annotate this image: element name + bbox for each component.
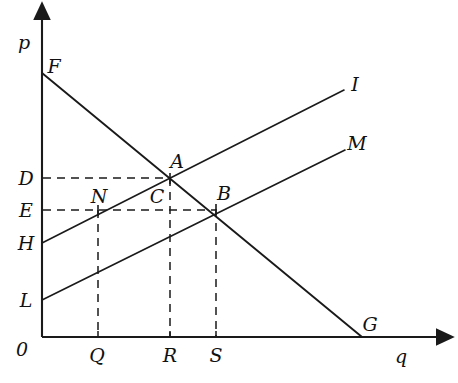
curve-label-m: M xyxy=(347,134,366,153)
point-label-g: G xyxy=(362,315,377,334)
y-tick-label-h: H xyxy=(18,234,35,253)
supply-curve-hi xyxy=(42,90,344,243)
curve-label-i: I xyxy=(351,75,359,94)
point-label-a: A xyxy=(170,152,184,171)
q-axis-label: q xyxy=(395,347,407,366)
y-tick-label-l: L xyxy=(20,291,33,310)
y-tick-label-e: E xyxy=(19,201,33,220)
x-tick-label-q: Q xyxy=(89,346,105,365)
supply-demand-figure: p q 0 D E H L Q R S F G A B N C I M xyxy=(0,0,458,383)
p-axis-label: p xyxy=(18,33,30,52)
supply-curve-lm xyxy=(42,150,345,300)
y-tick-label-d: D xyxy=(18,169,33,188)
point-label-f: F xyxy=(47,57,60,76)
point-label-c: C xyxy=(150,187,165,206)
x-tick-label-r: R xyxy=(163,346,177,365)
point-label-b: B xyxy=(217,184,231,203)
origin-label: 0 xyxy=(16,340,28,359)
x-tick-label-s: S xyxy=(209,346,222,365)
point-label-n: N xyxy=(91,187,108,206)
